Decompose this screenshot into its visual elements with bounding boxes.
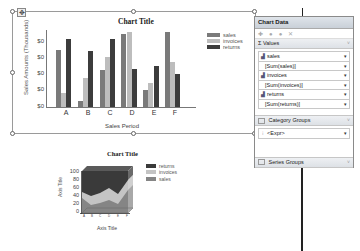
value-expression-returns[interactable]: [Sum(returns)] ▾ bbox=[258, 100, 350, 110]
category-groups-list: ⁝ <Expr> ▾ bbox=[255, 126, 353, 139]
move-down-icon[interactable]: ● bbox=[279, 31, 283, 37]
y-tick: 60 bbox=[63, 184, 79, 190]
connector-line bbox=[301, 168, 303, 251]
bar-returns-C[interactable] bbox=[110, 39, 115, 107]
series-expression: [Sum(returns)] bbox=[265, 101, 300, 107]
legend-item-returns: returns bbox=[207, 44, 240, 50]
dropdown-arrow-icon[interactable]: ▾ bbox=[344, 63, 347, 69]
move-icon[interactable]: ✥ bbox=[17, 8, 26, 17]
bar-returns-B[interactable] bbox=[88, 51, 93, 107]
value-series-invoices[interactable]: ▟ invoices ▾ bbox=[258, 71, 350, 81]
series-chart-icon: ▟ bbox=[259, 72, 267, 78]
bar-returns-A[interactable] bbox=[66, 39, 71, 107]
series-name: sales bbox=[267, 53, 280, 59]
legend-label: sales bbox=[159, 176, 171, 182]
value-series-returns[interactable]: ▟ returns ▾ bbox=[258, 90, 350, 100]
y-tick: $0 bbox=[28, 86, 44, 92]
dropdown-arrow-icon[interactable]: ▾ bbox=[344, 91, 347, 97]
dropdown-arrow-icon[interactable]: ▾ bbox=[344, 101, 347, 107]
resize-handle-top-right[interactable] bbox=[252, 9, 257, 14]
svg-text:E: E bbox=[117, 214, 119, 218]
dropdown-arrow-icon[interactable]: ▾ bbox=[344, 72, 347, 78]
series-name: returns bbox=[267, 91, 284, 97]
series-expression: [Sum(invoices)] bbox=[265, 82, 303, 88]
values-section-header[interactable]: Σ Values ˅ bbox=[255, 39, 353, 49]
area-top-face bbox=[82, 166, 133, 171]
move-up-icon[interactable]: ● bbox=[269, 31, 273, 37]
series-groups-label: Series Groups bbox=[269, 159, 304, 165]
bar-chart-x-axis-title[interactable]: Sales Period bbox=[105, 123, 139, 129]
x-category: B bbox=[83, 109, 93, 116]
legend-swatch bbox=[146, 177, 156, 181]
svg-text:B: B bbox=[91, 214, 93, 218]
values-list: ▟ sales ▾ [Sum(sales)] ▾ ▟ invoices ▾ [S… bbox=[255, 49, 353, 109]
y-tick: $0 bbox=[28, 103, 44, 109]
legend-label: invoices bbox=[159, 169, 177, 175]
chevron-down-icon[interactable]: ˅ bbox=[347, 116, 350, 125]
area-chart-x-axis-title[interactable]: Axis Title bbox=[97, 225, 117, 231]
x-category: D bbox=[127, 109, 137, 116]
y-tick: 40 bbox=[63, 192, 79, 198]
value-series-sales[interactable]: ▟ sales ▾ bbox=[258, 51, 350, 62]
delete-icon[interactable]: ✕ bbox=[288, 30, 293, 37]
svg-text:D: D bbox=[108, 214, 111, 218]
connector-line bbox=[302, 8, 303, 16]
value-expression-sales[interactable]: [Sum(sales)] ▾ bbox=[258, 62, 350, 72]
panel-toolbar: ✚ ● ● ✕ bbox=[255, 29, 353, 39]
resize-handle-top-left[interactable] bbox=[10, 9, 15, 14]
legend-label: returns bbox=[223, 44, 240, 50]
category-groups-icon bbox=[258, 118, 265, 124]
legend-item-invoices: invoices bbox=[146, 169, 177, 175]
bar-returns-D[interactable] bbox=[132, 69, 137, 108]
svg-text:A: A bbox=[83, 214, 85, 218]
category-groups-label: Category Groups bbox=[269, 117, 311, 123]
svg-text:C: C bbox=[99, 214, 102, 218]
add-icon[interactable]: ✚ bbox=[258, 30, 263, 37]
bar-chart-x-categories: A B C D E F bbox=[47, 109, 197, 118]
series-groups-icon bbox=[258, 159, 265, 165]
legend-swatch bbox=[146, 170, 156, 174]
y-tick: 80 bbox=[63, 176, 79, 182]
y-tick: 100 bbox=[63, 168, 79, 174]
y-tick: 20 bbox=[63, 200, 79, 206]
resize-handle-left[interactable] bbox=[10, 70, 15, 75]
x-category: E bbox=[149, 109, 159, 116]
area-chart-plot-area[interactable]: ABCDEF bbox=[80, 163, 136, 218]
series-name: invoices bbox=[267, 72, 287, 78]
panel-title: Chart Data bbox=[255, 17, 353, 29]
values-header-label: Σ Values bbox=[258, 40, 279, 46]
bar-chart-title[interactable]: Chart Title bbox=[118, 17, 154, 26]
resize-handle-bottom[interactable] bbox=[131, 131, 136, 136]
x-category: F bbox=[170, 109, 180, 116]
legend-swatch bbox=[207, 45, 220, 49]
bar-chart-plot-area[interactable] bbox=[47, 30, 197, 107]
y-tick: 0 bbox=[63, 208, 79, 214]
chevron-down-icon[interactable]: ˅ bbox=[347, 39, 350, 48]
legend-item-sales: sales bbox=[146, 176, 171, 182]
category-group-expression: <Expr> bbox=[267, 130, 285, 136]
bar-chart-x-axis bbox=[46, 107, 196, 108]
dropdown-arrow-icon[interactable]: ▾ bbox=[344, 82, 347, 88]
chevron-down-icon[interactable]: ˅ bbox=[347, 158, 350, 167]
bar-returns-E[interactable] bbox=[154, 66, 159, 107]
resize-handle-bottom-left[interactable] bbox=[10, 131, 15, 136]
value-expression-invoices[interactable]: [Sum(invoices)] ▾ bbox=[258, 81, 350, 91]
bar-returns-F[interactable] bbox=[175, 74, 180, 107]
legend-swatch bbox=[207, 39, 220, 43]
series-chart-icon: ▟ bbox=[259, 91, 267, 97]
area-chart-title[interactable]: Chart Title bbox=[107, 150, 138, 157]
resize-handle-top[interactable] bbox=[131, 9, 136, 14]
chart-data-panel: Chart Data ✚ ● ● ✕ Σ Values ˅ ▟ sales ▾ … bbox=[254, 16, 354, 168]
legend-swatch bbox=[146, 164, 156, 168]
svg-text:F: F bbox=[126, 214, 128, 218]
dropdown-arrow-icon[interactable]: ▾ bbox=[344, 53, 347, 59]
x-category: C bbox=[105, 109, 115, 116]
series-expression: [Sum(sales)] bbox=[265, 63, 296, 69]
group-icon: ⁝ bbox=[259, 130, 267, 136]
series-groups-header[interactable]: Series Groups ˅ bbox=[255, 157, 353, 168]
category-group-item[interactable]: ⁝ <Expr> ▾ bbox=[258, 128, 350, 139]
y-tick: $0 bbox=[28, 70, 44, 76]
y-tick: $0 bbox=[28, 38, 44, 44]
category-groups-header[interactable]: Category Groups ˅ bbox=[255, 115, 353, 126]
dropdown-arrow-icon[interactable]: ▾ bbox=[344, 130, 347, 136]
